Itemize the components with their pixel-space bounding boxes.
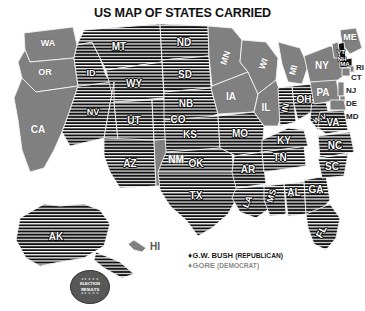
state-label-IA: IA — [226, 91, 236, 102]
state-label-MT: MT — [112, 41, 126, 52]
state-label-IL: IL — [262, 102, 271, 113]
state-label-OR: OR — [38, 67, 52, 77]
state-label-ID: ID — [87, 68, 97, 78]
state-label-DE: DE — [346, 99, 358, 108]
state-label-NB: NB — [179, 98, 193, 109]
state-MI[interactable] — [278, 42, 308, 84]
state-label-VA: VA — [326, 117, 339, 128]
state-label-TN: TN — [273, 152, 286, 163]
legend-label-bush: G.W. BUSH — [193, 251, 234, 260]
map-canvas: WA OR CA NV ID MT WY UT AZ NM CO ND SD N… — [0, 0, 365, 311]
state-label-CO: CO — [171, 114, 186, 125]
state-label-AL: AL — [287, 187, 300, 198]
state-label-MA: MA — [340, 60, 350, 67]
seal-stars-bottom: ★★★★★ — [81, 292, 100, 295]
state-label-SC: SC — [325, 161, 339, 172]
state-MD[interactable] — [330, 100, 346, 110]
state-HI[interactable] — [128, 240, 146, 252]
election-results-seal: ★★★★★ ELECTION RESULTS ★★★★★ — [70, 270, 110, 304]
state-label-SD: SD — [178, 69, 192, 80]
state-label-TX: TX — [190, 190, 203, 201]
state-label-AZ: AZ — [123, 158, 136, 169]
state-label-CA: CA — [31, 124, 45, 135]
state-label-OK: OK — [189, 158, 205, 169]
state-label-MD: MD — [346, 112, 359, 121]
state-label-CT: CT — [351, 73, 362, 82]
legend-item-gore: ♦GORE (DEMOCRAT) — [188, 261, 283, 271]
legend: ♦G.W. BUSH (REPUBLICAN) ♦GORE (DEMOCRAT) — [188, 251, 283, 271]
state-NJ[interactable] — [338, 82, 344, 96]
state-label-NM: NM — [168, 154, 184, 165]
state-label-KY: KY — [277, 135, 291, 146]
state-label-WY: WY — [126, 78, 142, 89]
state-label-OH: OH — [297, 94, 312, 105]
state-label-WA: WA — [41, 38, 56, 48]
state-label-MO: MO — [232, 128, 248, 139]
state-label-VT: VT — [337, 48, 345, 55]
legend-label-gore: GORE — [193, 261, 215, 270]
state-label-UT: UT — [127, 115, 140, 126]
state-label-NY: NY — [315, 60, 329, 71]
legend-marker-gore: ♦ — [188, 261, 192, 270]
state-label-HI: HI — [150, 241, 160, 252]
state-RI[interactable] — [350, 66, 354, 72]
state-label-NJ: NJ — [346, 86, 356, 95]
us-election-map: US MAP OF STATES CARRIED — [0, 0, 365, 311]
legend-party-bush: (REPUBLICAN) — [235, 252, 283, 259]
state-label-AR: AR — [241, 164, 256, 175]
state-label-AK: AK — [49, 231, 64, 242]
state-label-PA: PA — [316, 87, 329, 98]
legend-party-gore: (DEMOCRAT) — [217, 262, 259, 269]
state-TX[interactable] — [158, 172, 238, 236]
state-label-ND: ND — [177, 37, 191, 48]
state-label-ME: ME — [343, 32, 357, 42]
state-label-GA: GA — [309, 184, 324, 195]
state-label-NV: NV — [87, 107, 100, 117]
state-label-NC: NC — [328, 140, 342, 151]
state-CT[interactable] — [342, 68, 350, 76]
legend-item-bush: ♦G.W. BUSH (REPUBLICAN) — [188, 251, 283, 261]
state-label-KS: KS — [183, 129, 197, 140]
state-label-RI: RI — [356, 63, 364, 72]
seal-line-1: ELECTION — [80, 282, 100, 286]
legend-marker-bush: ♦ — [188, 251, 192, 260]
